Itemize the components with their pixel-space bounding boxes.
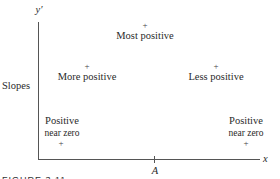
point-marker-positive-near-zero-left: + bbox=[56, 139, 66, 148]
point-marker-most-positive: + bbox=[140, 21, 150, 30]
point-label-more-positive: More positive bbox=[52, 71, 122, 83]
point-marker-more-positive: + bbox=[82, 62, 92, 71]
x-tick-label-a: A bbox=[150, 165, 160, 177]
point-label-most-positive: Most positive bbox=[110, 30, 180, 42]
point-marker-less-positive: + bbox=[211, 62, 221, 71]
y-axis-label: y′ bbox=[32, 4, 46, 16]
y-axis bbox=[38, 22, 39, 160]
slopes-label: Slopes bbox=[2, 80, 30, 92]
x-axis-label: x bbox=[263, 153, 268, 165]
x-axis-tick-a bbox=[154, 156, 155, 163]
point-label-positive-near-zero-right-line1: Positive bbox=[224, 115, 268, 127]
figure-caption: FIGURE 3.11 bbox=[2, 175, 66, 179]
x-axis bbox=[38, 159, 260, 160]
point-label-positive-near-zero-left-line1: Positive bbox=[40, 115, 84, 127]
point-marker-positive-near-zero-right: + bbox=[241, 139, 251, 148]
point-label-less-positive: Less positive bbox=[181, 71, 251, 83]
